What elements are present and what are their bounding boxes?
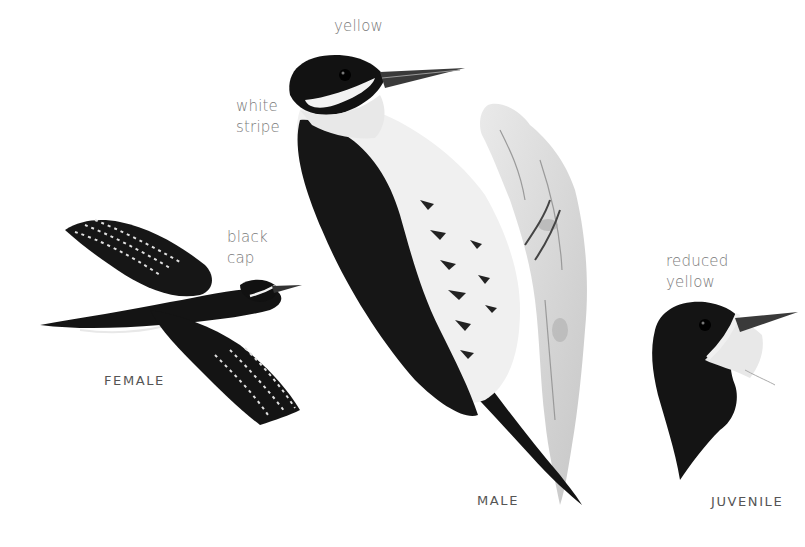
illustration-canvas: yellow white stripe black cap reduced ye… bbox=[0, 0, 805, 547]
caption-male: MALE bbox=[477, 493, 519, 509]
caption-juvenile: JUVENILE bbox=[711, 494, 783, 510]
caption-female: FEMALE bbox=[104, 373, 165, 389]
label-white-stripe: white stripe bbox=[236, 96, 280, 138]
juvenile-woodpecker bbox=[652, 302, 798, 480]
label-black-cap: black cap bbox=[227, 227, 268, 269]
label-reduced-yellow: reduced yellow bbox=[666, 251, 729, 293]
label-yellow: yellow bbox=[334, 16, 383, 37]
